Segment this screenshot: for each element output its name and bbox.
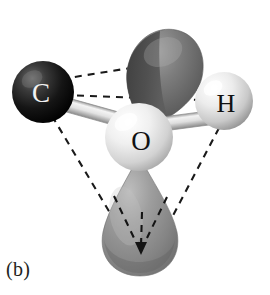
arrow-shaft-center (141, 212, 142, 246)
molecular-structure-figure: C O H (b) (0, 0, 270, 295)
atom-oxygen: O (105, 103, 173, 171)
atom-label-hydrogen: H (217, 89, 236, 118)
panel-label: (b) (6, 258, 30, 281)
atom-hydrogen: H (195, 72, 253, 130)
atom-label-oxygen: O (131, 126, 151, 156)
atom-carbon: C (12, 61, 74, 123)
lower-lone-pair-lobe (102, 155, 178, 276)
atom-label-carbon: C (32, 78, 50, 108)
molecule-diagram: C O H (0, 0, 270, 295)
